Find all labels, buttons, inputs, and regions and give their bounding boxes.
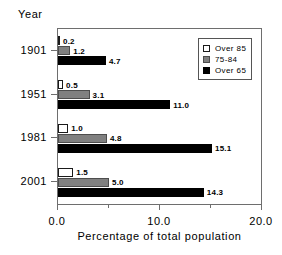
x-axis-minor-tick — [108, 205, 109, 208]
bar-row: 1.0 — [58, 124, 262, 133]
bar-group: 0.53.111.0 — [58, 80, 262, 110]
legend-label: Over 65 — [215, 66, 246, 75]
bar-a7584[interactable] — [58, 46, 70, 55]
x-axis-tick — [57, 205, 58, 210]
bar-group: 1.55.014.3 — [58, 168, 262, 198]
legend-item[interactable]: 75-84 — [203, 54, 246, 64]
x-axis-tick — [159, 205, 160, 210]
legend-swatch-icon — [203, 67, 210, 74]
category-tick — [51, 181, 57, 182]
x-axis-title: Percentage of total population — [57, 230, 262, 242]
category-label-1951: 1951 — [3, 88, 47, 100]
bar-a7584[interactable] — [58, 178, 109, 187]
bar-row: 4.8 — [58, 134, 262, 143]
category-tick — [51, 137, 57, 138]
bar-a7584[interactable] — [58, 90, 90, 99]
category-label-1981: 1981 — [3, 131, 47, 143]
bar-row: 11.0 — [58, 100, 262, 109]
category-label-2001: 2001 — [3, 175, 47, 187]
bar-a7584[interactable] — [58, 134, 107, 143]
bar-over85[interactable] — [58, 124, 68, 133]
x-axis: 0.010.020.0 — [57, 205, 262, 206]
bar-chart: Year 1901195119812001 0.21.24.70.53.111.… — [0, 0, 282, 255]
bar-value-label: 5.0 — [109, 178, 124, 187]
legend: Over 8575-84Over 65 — [198, 38, 252, 80]
category-axis: 1901195119812001 — [0, 28, 57, 205]
x-axis-tick-label: 20.0 — [249, 215, 272, 227]
bar-value-label: 1.2 — [70, 46, 85, 55]
category-tick — [51, 50, 57, 51]
y-axis-title: Year — [18, 8, 43, 20]
bar-group: 1.04.815.1 — [58, 124, 262, 154]
bar-value-label: 1.5 — [73, 168, 88, 177]
bar-value-label: 1.0 — [68, 124, 83, 133]
bar-over65[interactable] — [58, 100, 170, 109]
bar-row: 5.0 — [58, 178, 262, 187]
x-axis-minor-tick — [210, 205, 211, 208]
bar-row: 1.5 — [58, 168, 262, 177]
x-axis-tick-label: 10.0 — [147, 215, 170, 227]
bar-value-label: 4.7 — [106, 56, 121, 65]
legend-swatch-icon — [203, 56, 210, 63]
category-tick — [51, 94, 57, 95]
bar-over65[interactable] — [58, 144, 212, 153]
legend-label: 75-84 — [215, 55, 237, 64]
x-axis-tick-label: 0.0 — [49, 215, 66, 227]
bar-row: 14.3 — [58, 188, 262, 197]
bar-over65[interactable] — [58, 188, 204, 197]
bar-row: 3.1 — [58, 90, 262, 99]
legend-swatch-icon — [203, 45, 210, 52]
bar-value-label: 4.8 — [107, 134, 122, 143]
legend-item[interactable]: Over 65 — [203, 65, 246, 75]
bar-over65[interactable] — [58, 56, 106, 65]
bar-value-label: 0.5 — [63, 80, 78, 89]
legend-item[interactable]: Over 85 — [203, 43, 246, 53]
legend-label: Over 85 — [215, 44, 246, 53]
bar-value-label: 0.2 — [60, 36, 75, 45]
x-axis-tick — [261, 205, 262, 210]
bar-value-label: 3.1 — [90, 90, 105, 99]
category-label-1901: 1901 — [3, 44, 47, 56]
bar-over85[interactable] — [58, 168, 73, 177]
bar-row: 15.1 — [58, 144, 262, 153]
bar-value-label: 14.3 — [204, 188, 223, 197]
bar-row: 0.5 — [58, 80, 262, 89]
bar-value-label: 11.0 — [170, 100, 189, 109]
bar-value-label: 15.1 — [212, 144, 231, 153]
